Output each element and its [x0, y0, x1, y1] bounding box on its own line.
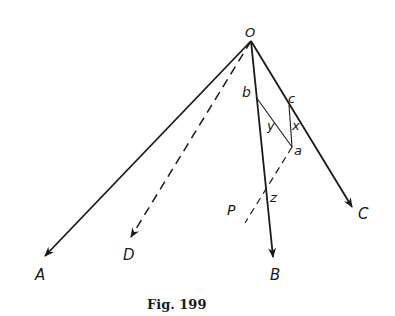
label-b: b	[242, 84, 251, 100]
figure-caption: Fig. 199	[147, 297, 206, 312]
label-D: D	[123, 246, 135, 264]
label-a: a	[294, 143, 302, 158]
label-c: c	[288, 91, 295, 106]
label-P: P	[227, 202, 236, 218]
label-y: y	[266, 118, 275, 133]
figure-199: O A B C D P a b c z x y Fig. 199	[0, 0, 395, 316]
label-z: z	[269, 190, 278, 205]
label-x: x	[291, 118, 300, 133]
label-O: O	[245, 25, 255, 40]
diagram-canvas: O A B C D P a b c z x y Fig. 199	[0, 0, 395, 316]
label-B: B	[270, 266, 280, 284]
label-A: A	[34, 266, 45, 284]
ray-OA	[45, 41, 251, 256]
label-C: C	[358, 205, 369, 223]
